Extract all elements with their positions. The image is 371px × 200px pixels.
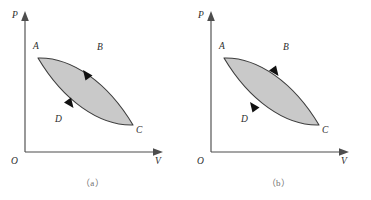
- panel-a-plot: A B C D P V O: [0, 0, 185, 175]
- point-label-b-C: C: [322, 125, 329, 135]
- y-axis-label-b: P: [197, 10, 204, 20]
- panel-a-caption: （a）: [0, 176, 185, 189]
- point-label-b-B: B: [283, 42, 289, 52]
- x-axis-arrowhead: [339, 148, 349, 156]
- x-axis-label-b: V: [341, 156, 348, 166]
- figure-root: A B C D P V O （a）: [0, 0, 371, 200]
- x-axis-arrowhead: [153, 148, 163, 156]
- flow-arrow-lower-b: [250, 102, 260, 113]
- panel-b-caption: （b）: [186, 176, 371, 189]
- x-axis: [211, 148, 349, 156]
- x-axis: [25, 148, 163, 156]
- origin-label-b: O: [197, 156, 204, 166]
- panel-b: A B C D P V O （b）: [186, 0, 371, 200]
- x-axis-label-a: V: [155, 156, 162, 166]
- cycle-curve-b: [224, 58, 319, 125]
- y-axis-arrowhead: [207, 11, 215, 21]
- cycle-curve-a: [38, 58, 133, 125]
- point-label-b-D: D: [240, 114, 248, 124]
- point-label-a-A: A: [32, 41, 39, 51]
- point-label-a-C: C: [136, 125, 143, 135]
- y-axis-label-a: P: [11, 10, 18, 20]
- point-label-a-D: D: [54, 114, 62, 124]
- y-axis: [207, 11, 215, 152]
- origin-label-a: O: [11, 156, 18, 166]
- y-axis-arrowhead: [21, 11, 29, 21]
- point-label-b-A: A: [218, 41, 225, 51]
- y-axis: [21, 11, 29, 152]
- panel-b-plot: A B C D P V O: [186, 0, 371, 175]
- panel-a: A B C D P V O （a）: [0, 0, 185, 200]
- point-label-a-B: B: [97, 42, 103, 52]
